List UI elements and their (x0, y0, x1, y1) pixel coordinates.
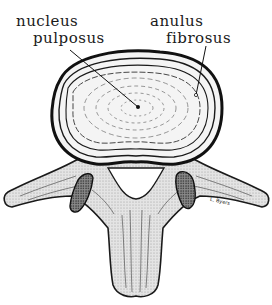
intervertebral-disc (52, 51, 222, 164)
anulus-label-line2: fibrosus (166, 30, 231, 46)
anulus-pointer-dot (194, 93, 197, 96)
vertebral-arch (4, 158, 268, 297)
anulus-label-line1: anulus (150, 13, 203, 29)
nucleus-label-line1: nucleus (16, 13, 78, 29)
nucleus-label-line2: pulposus (33, 30, 105, 46)
